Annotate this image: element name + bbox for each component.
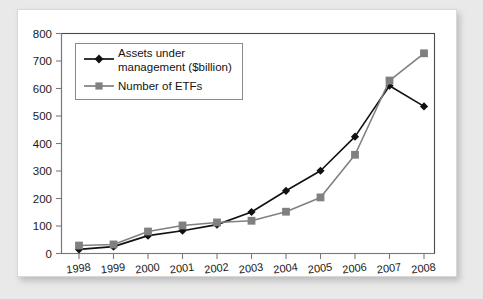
x-tick-label-2004: 2004 [273,261,299,276]
data-point-square-icon [179,222,187,230]
data-point-square-icon [144,228,152,236]
legend-label-assets-line1: Assets under [118,47,185,59]
y-tick-label-800: 800 [33,28,52,40]
y-axis-ticks: 0 100 200 300 400 500 600 700 800 [33,28,62,260]
y-tick-label-200: 200 [33,193,52,205]
y-tick-label-100: 100 [33,220,52,232]
y-tick-label-500: 500 [33,110,52,122]
data-point-square-icon [75,242,83,250]
y-tick-label-600: 600 [33,83,52,95]
data-point-square-icon [110,241,118,249]
x-tick-label-2002: 2002 [204,261,230,276]
y-tick-label-300: 300 [33,165,52,177]
x-tick-label-1999: 1999 [100,261,126,276]
x-tick-label-2003: 2003 [238,261,264,276]
x-tick-label-2005: 2005 [307,261,333,276]
legend-label-assets-line2: management ($billion) [118,61,232,73]
x-tick-label-2001: 2001 [169,261,195,276]
y-tick-label-700: 700 [33,55,52,67]
x-tick-label-2007: 2007 [376,261,402,276]
x-tick-label-2008: 2008 [411,261,437,276]
y-tick-label-400: 400 [33,138,52,150]
data-point-square-icon [213,219,221,227]
legend-label-etfs: Number of ETFs [118,80,203,92]
data-point-square-icon [351,151,359,159]
figure-card: 0 100 200 300 400 500 600 700 800 [17,9,457,277]
x-tick-label-1998: 1998 [66,261,92,276]
x-tick-label-2000: 2000 [135,261,161,276]
x-axis-ticks: 1998 1999 2000 2001 2002 2003 2004 2005 … [66,254,437,276]
data-point-square-icon [282,208,290,216]
line-chart: 0 100 200 300 400 500 600 700 800 [18,10,458,278]
y-tick-label-0: 0 [46,248,52,260]
legend-marker-etfs-square-icon [95,82,102,89]
data-point-square-icon [420,49,428,57]
chart-svg: 0 100 200 300 400 500 600 700 800 [18,10,458,278]
data-point-square-icon [386,77,394,85]
chart-legend: Assets under management ($billion) Numbe… [76,44,243,100]
x-tick-label-2006: 2006 [342,261,368,276]
data-point-square-icon [248,217,256,225]
data-point-square-icon [317,194,325,202]
